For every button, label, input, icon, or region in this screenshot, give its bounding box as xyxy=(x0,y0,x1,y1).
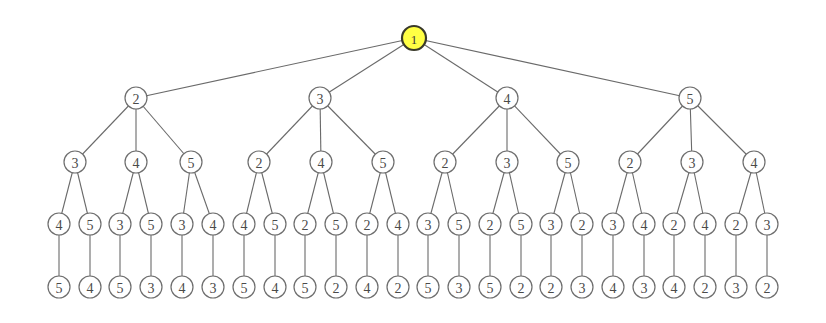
tree-node: 4 xyxy=(310,151,332,173)
tree-node: 4 xyxy=(202,213,224,235)
node-label: 4 xyxy=(364,281,371,296)
tree-node: 3 xyxy=(309,87,331,109)
node-label: 4 xyxy=(210,218,217,233)
node-label: 2 xyxy=(627,156,634,171)
tree-node: 3 xyxy=(202,276,224,298)
node-label: 5 xyxy=(241,281,248,296)
tree-node: 2 xyxy=(510,276,532,298)
tree-node: 5 xyxy=(264,213,286,235)
tree-edge xyxy=(320,98,383,162)
tree-node: 4 xyxy=(79,276,101,298)
node-label: 3 xyxy=(733,281,740,296)
tree-node: 2 xyxy=(248,151,270,173)
tree-node: 4 xyxy=(48,213,70,235)
tree-edge xyxy=(75,98,136,162)
tree-node: 5 xyxy=(180,151,202,173)
tree-node: 2 xyxy=(619,151,641,173)
tree-node: 3 xyxy=(540,213,562,235)
node-label: 2 xyxy=(302,218,309,233)
node-label: 3 xyxy=(764,218,771,233)
tree-edges xyxy=(59,38,767,287)
permutation-tree-diagram: 1234534524523523445353445252435253234242… xyxy=(0,0,826,323)
tree-node: 5 xyxy=(325,213,347,235)
node-label: 3 xyxy=(210,281,217,296)
tree-node: 3 xyxy=(681,151,703,173)
tree-node: 2 xyxy=(571,213,593,235)
tree-node: 2 xyxy=(125,87,147,109)
tree-node: 3 xyxy=(448,276,470,298)
tree-node: 2 xyxy=(294,213,316,235)
node-label: 4 xyxy=(241,218,248,233)
tree-edge xyxy=(630,98,690,162)
node-label: 5 xyxy=(333,218,340,233)
tree-node: 4 xyxy=(171,276,193,298)
tree-node: 5 xyxy=(417,276,439,298)
node-label: 2 xyxy=(733,218,740,233)
node-label: 5 xyxy=(87,218,94,233)
tree-node: 2 xyxy=(479,213,501,235)
node-label: 5 xyxy=(117,281,124,296)
node-label: 5 xyxy=(687,92,694,107)
tree-node: 4 xyxy=(356,276,378,298)
tree-edge xyxy=(136,38,414,98)
tree-node: 5 xyxy=(372,151,394,173)
tree-node: 4 xyxy=(387,213,409,235)
node-label: 3 xyxy=(148,281,155,296)
node-label: 2 xyxy=(133,92,140,107)
tree-node: 4 xyxy=(663,276,685,298)
node-label: 2 xyxy=(395,281,402,296)
node-label: 4 xyxy=(395,218,402,233)
tree-node: 4 xyxy=(633,213,655,235)
node-label: 3 xyxy=(548,218,555,233)
node-label: 5 xyxy=(425,281,432,296)
tree-node: 4 xyxy=(496,87,518,109)
node-label: 5 xyxy=(518,218,525,233)
tree-edge xyxy=(414,38,507,98)
node-label: 2 xyxy=(702,281,709,296)
tree-node: 3 xyxy=(725,276,747,298)
node-label: 3 xyxy=(689,156,696,171)
tree-node: 3 xyxy=(140,276,162,298)
tree-node: 4 xyxy=(125,151,147,173)
node-label: 4 xyxy=(504,92,511,107)
node-label: 4 xyxy=(179,281,186,296)
tree-edge xyxy=(320,38,414,98)
node-label: 2 xyxy=(333,281,340,296)
tree-edge xyxy=(414,38,690,98)
tree-node: 5 xyxy=(109,276,131,298)
node-label: 3 xyxy=(641,281,648,296)
node-label: 3 xyxy=(579,281,586,296)
tree-node: 2 xyxy=(434,151,456,173)
node-label: 2 xyxy=(548,281,555,296)
tree-edge xyxy=(445,98,507,162)
tree-node: 3 xyxy=(417,213,439,235)
node-label: 2 xyxy=(364,218,371,233)
tree-node: 3 xyxy=(496,151,518,173)
node-label: 4 xyxy=(318,156,325,171)
tree-node: 2 xyxy=(694,276,716,298)
tree-node: 2 xyxy=(356,213,378,235)
tree-node: 4 xyxy=(743,151,765,173)
node-label: 2 xyxy=(256,156,263,171)
tree-node: 4 xyxy=(602,276,624,298)
tree-node: 5 xyxy=(233,276,255,298)
node-label: 5 xyxy=(56,281,63,296)
root-node: 1 xyxy=(402,26,426,50)
node-label: 4 xyxy=(56,218,63,233)
tree-node: 2 xyxy=(756,276,778,298)
node-label: 5 xyxy=(302,281,309,296)
tree-edge xyxy=(690,98,754,162)
node-label: 5 xyxy=(456,218,463,233)
tree-node: 3 xyxy=(633,276,655,298)
tree-edge xyxy=(507,98,568,162)
node-label: 4 xyxy=(671,281,678,296)
tree-node: 5 xyxy=(140,213,162,235)
node-label: 3 xyxy=(317,92,324,107)
node-label: 2 xyxy=(579,218,586,233)
tree-node: 3 xyxy=(571,276,593,298)
node-label: 2 xyxy=(764,281,771,296)
tree-node: 5 xyxy=(679,87,701,109)
node-label: 5 xyxy=(565,156,572,171)
node-label: 4 xyxy=(702,218,709,233)
tree-node: 3 xyxy=(109,213,131,235)
